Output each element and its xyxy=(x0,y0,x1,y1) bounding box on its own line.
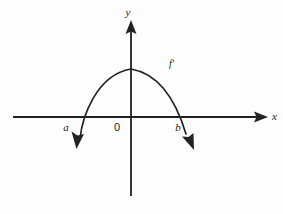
figure-background xyxy=(0,0,283,214)
point-label-b: b xyxy=(175,121,181,133)
y-axis-label: y xyxy=(125,6,131,18)
figure-container: x y 0 a b f' xyxy=(0,0,283,214)
origin-label: 0 xyxy=(114,121,120,133)
x-axis-label: x xyxy=(271,110,277,122)
curve-label-f-prime: f' xyxy=(169,58,175,69)
point-label-a: a xyxy=(63,121,69,133)
derivative-graph-figure: x y 0 a b f' xyxy=(0,0,283,214)
